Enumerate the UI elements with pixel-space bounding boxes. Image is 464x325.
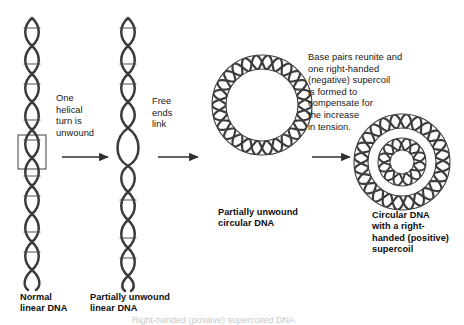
- panel-partially-unwound-circular-dna: [212, 55, 312, 155]
- panel-partially-unwound-linear-dna: [118, 18, 139, 291]
- clipped-footer-caption: Right-handed (positive) supercoiled DNA: [0, 317, 464, 325]
- caption-normal-linear-dna: Normal linear DNA: [20, 292, 67, 315]
- annotation-base-pairs-reunite: Base pairs reunite and one right-handed …: [308, 52, 402, 133]
- annotation-free-ends-link: Free ends link: [152, 96, 172, 131]
- caption-partially-unwound-linear-dna: Partially unwound linear DNA: [90, 292, 170, 315]
- annotation-one-helical-turn-unwound: One helical turn is unwound: [56, 93, 94, 139]
- caption-supercoiled-circular-dna: Circular DNA with a right- handed (posit…: [372, 210, 449, 255]
- clipped-footer-caption-text: Right-handed (positive) supercoiled DNA: [132, 317, 295, 325]
- diagram-artwork: [0, 0, 464, 325]
- caption-partially-unwound-circular-dna: Partially unwound circular DNA: [218, 207, 298, 230]
- panel-normal-linear-dna: [18, 18, 46, 290]
- diagram-canvas: One helical turn is unwound Free ends li…: [0, 0, 464, 325]
